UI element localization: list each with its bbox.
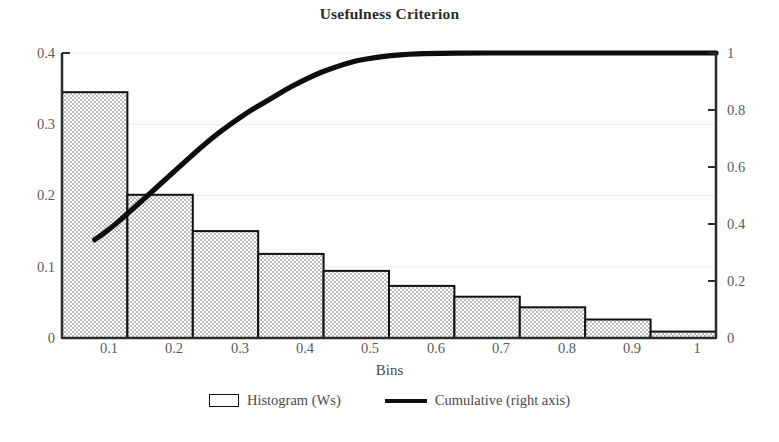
- histogram-bars: [62, 92, 716, 338]
- usefulness-criterion-chart: Usefulness Criterion 0.4 0.3 0.2 0.1 0 1…: [0, 0, 779, 442]
- y-right-tick-label: 0.2: [727, 273, 779, 290]
- x-tick-label: 1: [667, 340, 727, 357]
- bar: [62, 92, 127, 338]
- y-left-tick-label: 0.3: [3, 116, 55, 133]
- x-tick-label: 0.2: [144, 340, 204, 357]
- bar: [324, 271, 389, 338]
- y-right-tick-label: 0.8: [727, 102, 779, 119]
- line-swatch-icon: [385, 399, 427, 403]
- x-tick-label: 0.1: [79, 340, 139, 357]
- bar: [389, 286, 454, 338]
- y-right-tick-label: 0.6: [727, 159, 779, 176]
- y-right-tick-label: 0.4: [727, 216, 779, 233]
- bar: [520, 307, 585, 338]
- bar: [193, 231, 258, 338]
- chart-legend: Histogram (Ws) Cumulative (right axis): [0, 392, 779, 409]
- legend-label: Histogram (Ws): [247, 392, 341, 409]
- x-tick-label: 0.9: [602, 340, 662, 357]
- bar: [454, 297, 519, 338]
- x-tick-label: 0.7: [471, 340, 531, 357]
- y-left-tick-label: 0.4: [3, 45, 55, 62]
- x-tick-label: 0.8: [537, 340, 597, 357]
- histogram-swatch-icon: [209, 394, 239, 407]
- x-tick-label: 0.5: [340, 340, 400, 357]
- chart-title: Usefulness Criterion: [0, 5, 779, 23]
- legend-item-cumulative: Cumulative (right axis): [385, 392, 570, 409]
- x-tick-label: 0.3: [210, 340, 270, 357]
- x-tick-label: 0.6: [406, 340, 466, 357]
- bar: [127, 195, 192, 338]
- legend-item-histogram: Histogram (Ws): [209, 392, 341, 409]
- legend-label: Cumulative (right axis): [435, 392, 570, 409]
- bar: [585, 320, 650, 339]
- bar: [258, 254, 323, 338]
- y-right-tick-label: 1: [727, 45, 779, 62]
- plot-area: [62, 53, 716, 338]
- y-left-tick-label: 0.1: [3, 259, 55, 276]
- y-left-tick-label: 0.2: [3, 187, 55, 204]
- y-right-tick-label: 0: [727, 330, 779, 347]
- x-axis-title: Bins: [0, 362, 779, 379]
- x-tick-label: 0.4: [275, 340, 335, 357]
- plot-svg: [62, 53, 716, 338]
- y-left-tick-label: 0: [3, 330, 55, 347]
